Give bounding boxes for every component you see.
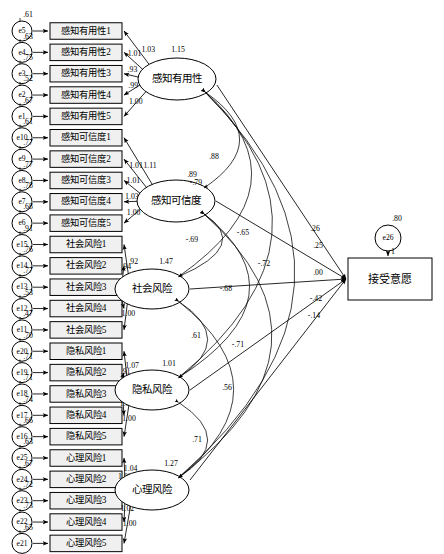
covariance-value: .56 xyxy=(222,383,232,392)
indicator-label: 社会风险1 xyxy=(66,238,107,249)
error-variance-e10: .61 xyxy=(23,117,33,126)
structural-path-pr xyxy=(190,279,346,390)
loading-value: 1.00 xyxy=(122,309,136,318)
error-variance-e9: .77 xyxy=(23,138,33,147)
structural-path-sr xyxy=(190,279,346,289)
structural-path-value: .25 xyxy=(313,241,323,250)
indicator-label: 隐私风险5 xyxy=(66,430,107,441)
indicator-label: 感知有用性4 xyxy=(61,89,111,100)
error-variance-e25: .63 xyxy=(23,437,33,446)
error-variance-e8: .77 xyxy=(23,160,33,169)
indicator-label: 感知可信度5 xyxy=(61,217,111,228)
error-variance-e15: .91 xyxy=(23,224,33,233)
structural-path-mr xyxy=(190,279,346,480)
error-variance-e3: .75 xyxy=(23,53,33,62)
error-label-e21: e21 xyxy=(17,539,28,548)
indicator-rows: .61e5感知有用性1.63e4感知有用性2.75e3感知有用性3.52e2感知… xyxy=(12,10,122,553)
sem-path-diagram: .61e5感知有用性1.63e4感知有用性2.75e3感知有用性3.52e2感知… xyxy=(0,0,444,554)
error-variance-e24: .67 xyxy=(23,459,33,468)
latent-variance-pu: 1.15 xyxy=(171,45,185,54)
latent-label-sr: 社会风险 xyxy=(132,282,173,294)
error-variance-e16: .66 xyxy=(23,416,33,425)
sem-diagram-canvas: .61e5感知有用性1.63e4感知有用性2.75e3感知有用性3.52e2感知… xyxy=(0,0,444,554)
latent-variance-mr: 1.27 xyxy=(164,459,178,468)
covariance-value: -.69 xyxy=(186,235,198,244)
indicator-label: 隐私风险3 xyxy=(66,388,107,399)
indicator-label: 感知可信度2 xyxy=(61,153,111,164)
error-variance-e1: .67 xyxy=(23,96,33,105)
error-variance-e5: .61 xyxy=(23,10,33,19)
loading-value: 1.01 xyxy=(127,176,141,185)
indicator-label: 隐私风险2 xyxy=(66,366,107,377)
error-variance-e11: .47 xyxy=(23,309,33,318)
covariance-value: .61 xyxy=(191,331,201,340)
indicator-label: 感知有用性5 xyxy=(61,110,111,121)
loading-value: 1.00 xyxy=(123,519,137,528)
indicator-label: 心理风险2 xyxy=(66,473,107,484)
structural-path-pc xyxy=(216,201,346,279)
latent-variance-pr: 1.01 xyxy=(162,359,176,368)
error-label-e26: e26 xyxy=(383,233,394,242)
covariance-value: -.72 xyxy=(258,259,270,268)
error-variance-e6: .68 xyxy=(23,202,33,211)
indicator-label: 社会风险3 xyxy=(66,281,107,292)
error-variance-e4: .63 xyxy=(23,32,33,41)
indicator-label: 心理风险1 xyxy=(66,452,107,463)
indicator-label: 隐私风险4 xyxy=(66,409,107,420)
outcome-label: 接受意愿 xyxy=(368,272,412,285)
covariance-value: -.68 xyxy=(220,284,232,293)
indicator-label: 社会风险2 xyxy=(66,259,107,270)
indicator-label: 感知可信度4 xyxy=(61,195,111,206)
indicator-label: 感知可信度3 xyxy=(61,174,111,185)
indicator-label: 隐私风险1 xyxy=(66,345,107,356)
error-variance-e17: .74 xyxy=(23,395,33,404)
latent-label-pc: 感知可信度 xyxy=(151,194,202,206)
outcome-error-path-label: 1 xyxy=(391,247,395,256)
structural-path-value: .00 xyxy=(313,268,323,277)
covariance-value: .88 xyxy=(209,152,219,161)
indicator-label: 感知有用性3 xyxy=(61,67,111,78)
structural-path-value: -.14 xyxy=(308,311,320,320)
error-variance-e19: .71 xyxy=(23,352,33,361)
latent-label-mr: 心理风险 xyxy=(132,483,173,495)
dynamic-layer: 1.031.01.93.991.00感知有用性1.151.111.011.011… xyxy=(115,31,432,543)
structural-path-pu xyxy=(217,85,346,279)
indicator-label: 感知可信度1 xyxy=(61,131,111,142)
error-variance-e13: .77 xyxy=(23,266,33,275)
indicator-label: 心理风险4 xyxy=(66,516,107,527)
error-variance-e14: .76 xyxy=(23,245,33,254)
indicator-label: 心理风险5 xyxy=(66,537,107,548)
error-variance-e18: .71 xyxy=(23,373,33,382)
loading-value: 1.00 xyxy=(129,97,143,106)
error-variance-e7: .78 xyxy=(23,181,33,190)
loading-arrow xyxy=(124,201,139,202)
covariance-value: .71 xyxy=(192,435,202,444)
covariance-value: -.79 xyxy=(190,178,202,187)
error-variance-e22: .73 xyxy=(23,501,33,510)
covariance-value: -.65 xyxy=(237,228,249,237)
loading-value: 1.00 xyxy=(127,208,141,217)
indicator-label: 感知有用性1 xyxy=(61,25,111,36)
error-variance-e12: .53 xyxy=(23,288,33,297)
loading-value: .99 xyxy=(128,81,138,90)
error-variance-e2: .52 xyxy=(23,74,33,83)
structural-path-value: .26 xyxy=(310,224,320,233)
loading-value: .93 xyxy=(128,65,138,74)
latent-variance-sr: 1.47 xyxy=(159,257,173,266)
error-variance-e26: .80 xyxy=(392,214,402,223)
indicator-label: 社会风险5 xyxy=(66,324,107,335)
loading-value: 1.00 xyxy=(122,414,136,423)
error-variance-e23: .72 xyxy=(23,480,33,489)
indicator-label: 心理风险3 xyxy=(66,494,107,505)
error-variance-e21: .65 xyxy=(23,523,33,532)
structural-path-value: -.42 xyxy=(310,294,322,303)
indicator-label: 感知有用性2 xyxy=(61,46,111,57)
loading-value: .94 xyxy=(121,262,131,271)
covariance-value: -.71 xyxy=(232,340,244,349)
loading-value: 1.11 xyxy=(143,161,156,170)
latent-label-pu: 感知有用性 xyxy=(152,72,202,84)
indicator-label: 社会风险4 xyxy=(66,302,107,313)
error-variance-e20: .70 xyxy=(23,331,33,340)
loading-value: 1.03 xyxy=(141,45,155,54)
loading-value: 1.01 xyxy=(129,161,143,170)
